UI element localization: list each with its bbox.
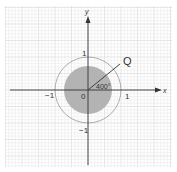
tick-label-x-pos: 1 [125, 92, 130, 101]
origin-label: 0 [81, 92, 86, 101]
tick-label-x-neg: −1 [45, 91, 55, 100]
x-axis-label: x [162, 87, 167, 94]
angle-label: 400° [96, 83, 111, 90]
tick-label-y-pos: 1 [82, 49, 87, 58]
y-axis-label: y [84, 8, 89, 16]
point-q-label: Q [123, 55, 132, 67]
unit-circle-diagram: x y 1 −1 1 −1 0 Q 400° [0, 0, 177, 172]
tick-label-y-neg: −1 [79, 126, 89, 135]
